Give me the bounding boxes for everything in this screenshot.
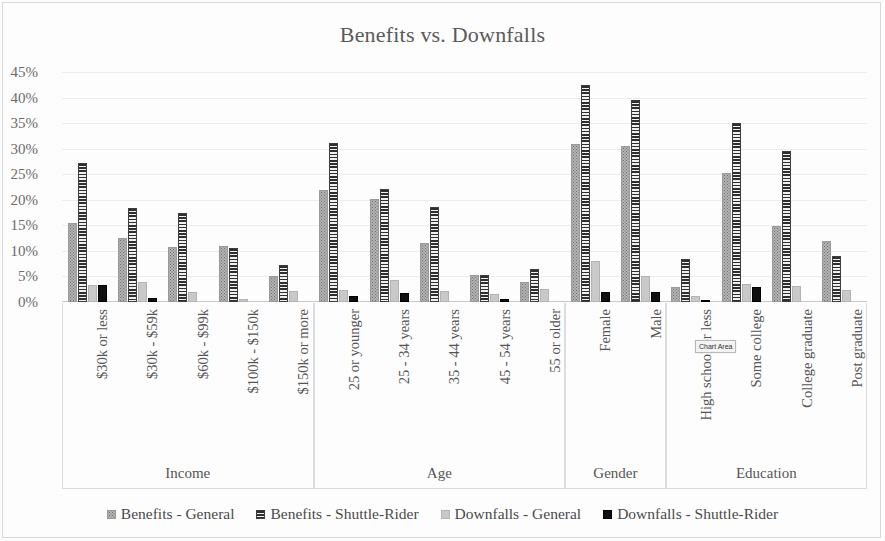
bar[interactable] bbox=[641, 276, 650, 302]
y-axis-tick-label: 5% bbox=[0, 268, 38, 285]
group-label: Education bbox=[667, 465, 866, 482]
bar[interactable] bbox=[651, 292, 660, 302]
category-label: $60k - $99k bbox=[195, 309, 212, 379]
bar[interactable] bbox=[520, 282, 529, 302]
legend-item[interactable]: Benefits - Shuttle-Rider bbox=[256, 505, 418, 523]
bar[interactable] bbox=[239, 299, 248, 302]
category-label: Some college bbox=[748, 309, 765, 388]
category-label-band: $30k or less$30k - $59k$60k - $99k$100k … bbox=[62, 303, 867, 489]
bar[interactable] bbox=[581, 85, 590, 302]
category-group-income: $30k or less$30k - $59k$60k - $99k$100k … bbox=[62, 303, 314, 489]
chart-title: Benefits vs. Downfalls bbox=[0, 22, 885, 48]
bar[interactable] bbox=[601, 292, 610, 302]
bar-cluster bbox=[414, 72, 464, 302]
bar[interactable] bbox=[742, 284, 751, 302]
bar[interactable] bbox=[138, 282, 147, 302]
bar[interactable] bbox=[219, 246, 228, 302]
bar[interactable] bbox=[148, 298, 157, 302]
bar[interactable] bbox=[591, 261, 600, 302]
bar[interactable] bbox=[480, 275, 489, 302]
chart-area-tooltip: Chart Area bbox=[695, 340, 736, 353]
bar[interactable] bbox=[772, 226, 781, 302]
bar[interactable] bbox=[78, 163, 87, 302]
category-label: 25 - 34 years bbox=[396, 309, 413, 384]
bar[interactable] bbox=[229, 248, 238, 302]
bar[interactable] bbox=[732, 123, 741, 302]
bar[interactable] bbox=[430, 207, 439, 302]
legend-swatch-icon bbox=[107, 510, 116, 519]
category-label: High school or less bbox=[698, 309, 715, 421]
legend-swatch-icon bbox=[603, 510, 612, 519]
bar[interactable] bbox=[269, 276, 278, 302]
y-axis-tick-label: 40% bbox=[0, 89, 38, 106]
bar[interactable] bbox=[400, 293, 409, 302]
bar[interactable] bbox=[540, 289, 549, 302]
bar[interactable] bbox=[98, 285, 107, 302]
group-label: Gender bbox=[566, 465, 665, 482]
bar-cluster bbox=[112, 72, 162, 302]
bar[interactable] bbox=[571, 144, 580, 302]
legend-item[interactable]: Downfalls - Shuttle-Rider bbox=[603, 505, 778, 523]
bar[interactable] bbox=[752, 287, 761, 302]
bar-cluster bbox=[62, 72, 112, 302]
bar[interactable] bbox=[782, 151, 791, 302]
bar[interactable] bbox=[279, 265, 288, 302]
legend-swatch-icon bbox=[441, 510, 450, 519]
bar[interactable] bbox=[68, 223, 77, 302]
bar[interactable] bbox=[490, 294, 499, 302]
bar[interactable] bbox=[470, 275, 479, 302]
group-label: Age bbox=[315, 465, 565, 482]
legend-swatch-icon bbox=[256, 510, 265, 519]
y-axis-tick-label: 30% bbox=[0, 140, 38, 157]
bar[interactable] bbox=[500, 299, 509, 302]
category-label: 25 or younger bbox=[346, 309, 363, 390]
bar[interactable] bbox=[349, 296, 358, 302]
bar[interactable] bbox=[380, 189, 389, 302]
bar[interactable] bbox=[832, 256, 841, 302]
bar-cluster bbox=[817, 72, 867, 302]
bar[interactable] bbox=[671, 287, 680, 302]
bar[interactable] bbox=[88, 285, 97, 302]
bar[interactable] bbox=[128, 208, 137, 302]
bar[interactable] bbox=[822, 241, 831, 302]
legend-item[interactable]: Downfalls - General bbox=[441, 505, 582, 523]
bar[interactable] bbox=[691, 296, 700, 302]
bar[interactable] bbox=[339, 290, 348, 302]
bar-cluster bbox=[716, 72, 766, 302]
y-axis-tick-label: 25% bbox=[0, 166, 38, 183]
bar[interactable] bbox=[701, 300, 710, 302]
bar[interactable] bbox=[118, 238, 127, 302]
bar[interactable] bbox=[621, 146, 630, 302]
bar-cluster bbox=[515, 72, 565, 302]
bar[interactable] bbox=[168, 247, 177, 302]
bar-cluster bbox=[465, 72, 515, 302]
category-label: $30k - $59k bbox=[144, 309, 161, 379]
bar[interactable] bbox=[420, 243, 429, 302]
bar[interactable] bbox=[319, 190, 328, 302]
y-axis-tick-label: 0% bbox=[0, 294, 38, 311]
legend-item[interactable]: Benefits - General bbox=[107, 505, 235, 523]
legend-label: Benefits - General bbox=[121, 505, 235, 523]
bar[interactable] bbox=[440, 291, 449, 302]
bar[interactable] bbox=[842, 290, 851, 302]
bar[interactable] bbox=[792, 286, 801, 302]
bar-cluster bbox=[565, 72, 615, 302]
bar[interactable] bbox=[289, 291, 298, 302]
chart-container: Benefits vs. Downfalls 0%5%10%15%20%25%3… bbox=[0, 0, 885, 541]
bar[interactable] bbox=[681, 259, 690, 302]
category-group-age: 25 or younger25 - 34 years35 - 44 years4… bbox=[314, 303, 566, 489]
bar[interactable] bbox=[329, 143, 338, 302]
y-axis-tick-label: 10% bbox=[0, 242, 38, 259]
category-label: Male bbox=[648, 309, 665, 339]
bar[interactable] bbox=[722, 173, 731, 302]
bar[interactable] bbox=[370, 199, 379, 302]
group-label: Income bbox=[63, 465, 313, 482]
y-axis-tick-label: 20% bbox=[0, 191, 38, 208]
bar[interactable] bbox=[178, 213, 187, 302]
bar[interactable] bbox=[390, 280, 399, 302]
bar[interactable] bbox=[530, 269, 539, 302]
category-label: 45 - 54 years bbox=[497, 309, 514, 384]
category-group-gender: FemaleMaleGender bbox=[565, 303, 666, 489]
bar[interactable] bbox=[188, 292, 197, 302]
bar[interactable] bbox=[631, 100, 640, 302]
